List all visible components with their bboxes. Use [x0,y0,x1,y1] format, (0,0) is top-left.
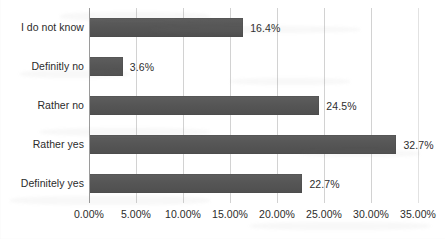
x-tick-label: 30.00% [353,208,389,220]
x-tick-label: 5.00% [121,208,151,220]
bar-rather-no [89,96,319,115]
bar-value-label: 22.7% [309,178,339,190]
x-tick-label: 10.00% [165,208,201,220]
bar-value-label: 16.4% [250,22,280,34]
bar-chart: I do not knowDefinitly noRather noRather… [0,0,445,239]
bar-row: 16.4% [89,18,418,37]
x-tick-label: 20.00% [259,208,295,220]
bar-row: 3.6% [89,57,418,76]
category-label-rather-no: Rather no [0,99,84,111]
bar-value-label: 24.5% [326,100,356,112]
bar-definitly-no [89,57,123,76]
bar-rather-yes [89,135,396,154]
x-tick-label: 0.00% [74,208,104,220]
value-axis-line [89,8,90,203]
x-tick-label: 15.00% [212,208,248,220]
value-axis-tick-labels: 0.00%5.00%10.00%15.00%20.00%25.00%30.00%… [0,208,445,228]
bar-i-do-not-know [89,18,243,37]
bar-definitely-yes [89,174,302,193]
category-label-rather-yes: Rather yes [0,138,84,150]
bar-value-label: 32.7% [403,139,433,151]
category-label-i-do-not-know: I do not know [0,21,84,33]
gridline-35.00% [418,8,419,203]
category-axis-labels: I do not knowDefinitly noRather noRather… [0,0,84,239]
bar-value-label: 3.6% [130,61,154,73]
x-tick-label: 25.00% [306,208,342,220]
x-tick-label: 35.00% [400,208,436,220]
category-label-definitely-yes: Definitely yes [0,177,84,189]
category-label-definitly-no: Definitly no [0,60,84,72]
bar-row: 32.7% [89,135,418,154]
bar-row: 22.7% [89,174,418,193]
bar-row: 24.5% [89,96,418,115]
